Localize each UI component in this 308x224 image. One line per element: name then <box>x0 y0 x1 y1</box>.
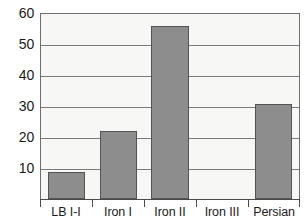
x-axis-category-iron-iii: Iron III <box>196 200 248 224</box>
bar-slot-iron-i <box>93 14 145 199</box>
y-tick-label-30: 30 <box>19 99 34 113</box>
y-axis: 60 50 40 30 20 10 <box>0 0 36 224</box>
y-tick-label-50: 50 <box>19 37 34 51</box>
x-axis-category-lb-i-i: LB I-I <box>40 200 92 224</box>
bar-iron-i[interactable] <box>100 131 137 199</box>
plot-area <box>40 13 300 200</box>
y-tick-label-10: 10 <box>19 161 34 175</box>
y-tick-label-40: 40 <box>19 68 34 82</box>
y-tick-label-20: 20 <box>19 130 34 144</box>
x-axis-label-lb-i-i: LB I-I <box>51 206 80 219</box>
bar-slot-persian <box>247 14 299 199</box>
bars-layer <box>41 14 299 199</box>
x-axis-label-persian: Persian <box>253 206 295 219</box>
y-tick-label-60: 60 <box>19 6 34 20</box>
x-axis-category-persian: Persian <box>248 200 300 224</box>
bar-lb-i-i[interactable] <box>48 172 85 199</box>
x-axis-label-iron-ii: Iron II <box>154 206 185 219</box>
x-axis-category-iron-i: Iron I <box>92 200 144 224</box>
bar-persian[interactable] <box>255 104 292 199</box>
bar-iron-ii[interactable] <box>151 26 188 199</box>
bar-slot-iron-ii <box>144 14 196 199</box>
x-axis-category-iron-ii: Iron II <box>144 200 196 224</box>
x-axis-label-iron-i: Iron I <box>104 206 132 219</box>
x-axis: LB I-I Iron I Iron II Iron III Persian <box>40 200 300 224</box>
x-axis-label-iron-iii: Iron III <box>205 206 240 219</box>
bar-slot-lb-i-i <box>41 14 93 199</box>
bar-chart: 60 50 40 30 20 10 <box>0 0 308 224</box>
bar-slot-iron-iii <box>196 14 248 199</box>
